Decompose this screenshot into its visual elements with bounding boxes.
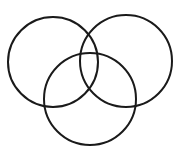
bottom-circle	[44, 53, 136, 145]
left-circle	[8, 17, 98, 107]
right-circle	[80, 15, 172, 107]
venn-diagram	[0, 0, 182, 156]
